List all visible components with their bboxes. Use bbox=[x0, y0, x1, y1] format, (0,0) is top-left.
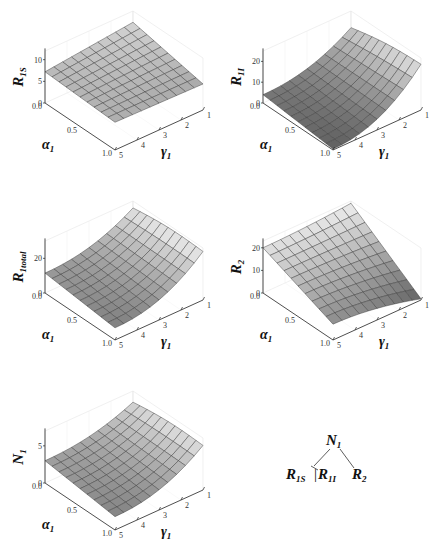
surface-plot-n1: 050.00.51.012345N1α1γ1 bbox=[0, 380, 218, 558]
z-tick-label: 10 bbox=[252, 78, 260, 87]
gamma-tick-label: 5 bbox=[337, 151, 341, 160]
alpha-tick-label: 0.5 bbox=[67, 316, 77, 325]
tree-svg: N1 R1S | R1I R2 bbox=[278, 428, 388, 488]
tree-root: N1 bbox=[325, 432, 341, 450]
surface-svg: 010200.00.51.012345R1Iα1γ1 bbox=[218, 0, 436, 186]
gamma-tick-label: 2 bbox=[185, 311, 189, 320]
gamma-tick-label: 3 bbox=[163, 511, 167, 520]
gamma-tick-label: 3 bbox=[163, 131, 167, 140]
gamma-tick-label: 3 bbox=[381, 131, 385, 140]
gamma-tick-label: 2 bbox=[403, 311, 407, 320]
surface-plot-r1total: 0200.00.51.012345R1totalα1γ1 bbox=[0, 190, 218, 376]
gamma-tick-label: 1 bbox=[207, 491, 211, 500]
gamma-tick-label: 2 bbox=[185, 501, 189, 510]
gamma-tick-label: 2 bbox=[185, 121, 189, 130]
gamma-axis-label: γ1 bbox=[379, 334, 389, 351]
gamma-tick-label: 5 bbox=[119, 531, 123, 540]
gamma-tick-label: 1 bbox=[207, 301, 211, 310]
alpha-tick-label: 0.5 bbox=[67, 506, 77, 515]
gamma-tick-label: 4 bbox=[359, 331, 363, 340]
tree-leaf-r1i: R1I bbox=[317, 466, 337, 484]
alpha-axis-label: α1 bbox=[42, 137, 54, 154]
alpha-tick-label: 1.0 bbox=[102, 529, 112, 538]
alpha-tick-label: 1.0 bbox=[102, 149, 112, 158]
z-axis-label: N1 bbox=[10, 449, 28, 465]
alpha-axis-label: α1 bbox=[260, 137, 272, 154]
surface-svg: 0200.00.51.012345R1totalα1γ1 bbox=[0, 190, 218, 376]
tree-separator: | bbox=[314, 466, 317, 482]
z-tick-label: 20 bbox=[252, 57, 260, 66]
surface-plot-r1i: 010200.00.51.012345R1Iα1γ1 bbox=[218, 0, 436, 186]
dependency-tree: N1 R1S | R1I R2 bbox=[278, 428, 388, 488]
z-tick-label: 20 bbox=[252, 244, 260, 253]
gamma-tick-label: 4 bbox=[141, 521, 145, 530]
alpha-tick-label: 0.5 bbox=[285, 316, 295, 325]
gamma-axis-label: γ1 bbox=[161, 524, 171, 541]
tree-edge-left bbox=[314, 449, 330, 466]
alpha-tick-label: 0.0 bbox=[32, 102, 42, 111]
z-axis-label: R2 bbox=[228, 259, 246, 275]
gamma-tick-label: 4 bbox=[359, 141, 363, 150]
gamma-tick-label: 5 bbox=[119, 151, 123, 160]
surface-plot-r2: 010200.00.51.012345R2α1γ1 bbox=[218, 190, 436, 376]
gamma-tick-label: 4 bbox=[141, 141, 145, 150]
z-tick-label: 5 bbox=[38, 442, 42, 451]
gamma-axis-label: γ1 bbox=[161, 144, 171, 161]
surface-svg: 050.00.51.012345N1α1γ1 bbox=[0, 380, 218, 558]
surface-svg: 05100.00.51.012345R1Sα1γ1 bbox=[0, 0, 218, 186]
gamma-tick-label: 2 bbox=[403, 121, 407, 130]
z-tick-label: 10 bbox=[252, 266, 260, 275]
alpha-tick-label: 0.0 bbox=[32, 292, 42, 301]
gamma-tick-label: 3 bbox=[381, 321, 385, 330]
gamma-tick-label: 5 bbox=[119, 341, 123, 350]
alpha-tick-label: 0.5 bbox=[67, 126, 77, 135]
alpha-tick-label: 1.0 bbox=[102, 339, 112, 348]
alpha-tick-label: 0.5 bbox=[285, 126, 295, 135]
alpha-axis-label: α1 bbox=[42, 327, 54, 344]
z-axis-label: R1total bbox=[10, 251, 28, 284]
z-tick-label: 5 bbox=[38, 77, 42, 86]
tree-leaf-r2: R2 bbox=[351, 466, 367, 484]
alpha-tick-label: 0.0 bbox=[32, 482, 42, 491]
gamma-tick-label: 5 bbox=[337, 341, 341, 350]
surface-svg: 010200.00.51.012345R2α1γ1 bbox=[218, 190, 436, 376]
alpha-tick-label: 1.0 bbox=[320, 149, 330, 158]
gamma-tick-label: 1 bbox=[425, 301, 429, 310]
alpha-tick-label: 1.0 bbox=[320, 339, 330, 348]
gamma-axis-label: γ1 bbox=[379, 144, 389, 161]
gamma-tick-label: 4 bbox=[141, 331, 145, 340]
alpha-tick-label: 0.0 bbox=[250, 102, 260, 111]
surface-plot-r1s: 05100.00.51.012345R1Sα1γ1 bbox=[0, 0, 218, 186]
tree-leaf-r1s: R1S bbox=[285, 466, 306, 484]
gamma-axis-label: γ1 bbox=[161, 334, 171, 351]
z-axis-label: R1S bbox=[10, 67, 28, 88]
z-axis-label: R1I bbox=[228, 68, 246, 88]
alpha-tick-label: 0.0 bbox=[250, 292, 260, 301]
z-tick-label: 10 bbox=[34, 56, 42, 65]
z-tick-label: 20 bbox=[34, 254, 42, 263]
gamma-tick-label: 1 bbox=[207, 111, 211, 120]
gamma-tick-label: 3 bbox=[163, 321, 167, 330]
alpha-axis-label: α1 bbox=[260, 327, 272, 344]
alpha-axis-label: α1 bbox=[42, 517, 54, 534]
gamma-tick-label: 1 bbox=[425, 111, 429, 120]
